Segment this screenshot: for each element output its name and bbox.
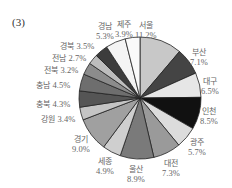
- label-gwangju: 광주5.7%: [188, 139, 206, 156]
- label-daejeon: 대전7.3%: [162, 160, 180, 177]
- label-gyeongnam: 경남5.3%: [96, 23, 114, 40]
- label-jeju: 제주3.9%: [115, 21, 133, 38]
- label-sejong: 세종4.9%: [96, 158, 114, 175]
- label-jeonbuk: 전북 3.2%: [44, 66, 78, 76]
- label-chungnam: 충남 4.5%: [36, 81, 70, 91]
- label-jeonnam: 전남 2.7%: [52, 54, 86, 64]
- label-ulsan: 울산8.9%: [127, 166, 145, 183]
- label-gangwon: 강원 3.4%: [41, 115, 75, 125]
- label-daegu: 대구6.5%: [201, 78, 219, 95]
- label-gyeongbuk: 경북 3.5%: [60, 42, 94, 52]
- label-chungbuk: 충북 4.3%: [36, 100, 70, 110]
- label-incheon: 인천8.5%: [200, 108, 218, 125]
- label-seoul: 서울11.2%: [135, 22, 157, 39]
- label-busan: 부산7.1%: [190, 49, 208, 66]
- label-gyeonggi: 경기9.0%: [72, 136, 90, 153]
